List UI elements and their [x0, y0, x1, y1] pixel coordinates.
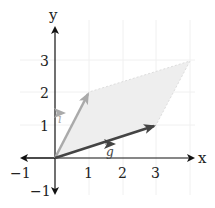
svg-text:g: g	[106, 145, 114, 159]
y-axis-label: y	[48, 6, 58, 24]
vector-diagram: i g x y −1 1 2 3 3 2 1 −1	[0, 0, 215, 208]
vector-g-label: g	[105, 144, 114, 159]
x-tick-neg1: −1	[10, 165, 31, 181]
y-tick-2: 2	[40, 85, 49, 101]
vector-i-label: i	[56, 112, 64, 126]
y-tick-1: 1	[40, 118, 49, 134]
x-axis-label: x	[198, 149, 207, 167]
svg-text:i: i	[58, 112, 62, 126]
x-tick-3: 3	[151, 165, 160, 181]
y-tick-3: 3	[40, 53, 49, 69]
y-tick-neg1: −1	[30, 183, 51, 199]
x-tick-1: 1	[84, 165, 93, 181]
x-tick-2: 2	[118, 165, 127, 181]
